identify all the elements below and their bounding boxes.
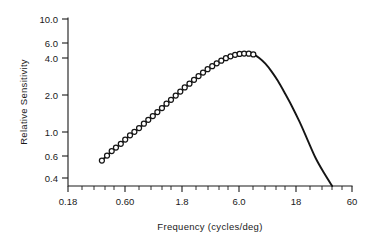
data-point: [99, 158, 104, 163]
y-tick-label: 0.6: [45, 151, 58, 162]
sensitivity-curve: [102, 54, 332, 187]
y-tick-label: 1.0: [45, 127, 58, 138]
data-point: [105, 153, 110, 158]
x-tick-label: 1.8: [175, 196, 188, 207]
x-tick-label: 18: [291, 196, 302, 207]
contrast-sensitivity-plot: 10.0 6.0 4.0 2.0 1.0 0.6 0.4: [0, 0, 372, 247]
x-tick-label: 0.18: [59, 196, 78, 207]
chart-figure: 10.0 6.0 4.0 2.0 1.0 0.6 0.4: [0, 0, 372, 247]
x-tick-label: 6.0: [232, 196, 245, 207]
data-point: [159, 106, 164, 111]
data-point: [196, 74, 201, 79]
data-point: [173, 93, 178, 98]
data-point: [201, 70, 206, 75]
y-tick-label: 6.0: [45, 38, 58, 49]
data-point: [192, 77, 197, 82]
data-point: [187, 81, 192, 86]
data-point: [205, 67, 210, 72]
data-point-markers: [99, 51, 255, 163]
data-point: [141, 121, 146, 126]
x-axis-minor-ticks: [82, 186, 342, 190]
data-point: [169, 97, 174, 102]
data-point: [155, 110, 160, 115]
y-tick-label: 4.0: [45, 53, 58, 64]
data-point: [146, 117, 151, 122]
y-tick-label: 2.0: [45, 90, 58, 101]
data-point: [164, 101, 169, 106]
data-point: [128, 133, 133, 138]
y-tick-labels: 10.0 6.0 4.0 2.0 1.0 0.6 0.4: [40, 14, 59, 184]
y-tick-label: 0.4: [45, 173, 58, 184]
x-axis-major-ticks: [68, 186, 352, 192]
axis-lines: [68, 18, 352, 186]
y-axis-major-ticks: [62, 19, 68, 178]
data-point: [137, 126, 142, 131]
data-point: [118, 141, 123, 146]
x-tick-label: 60: [347, 196, 358, 207]
y-axis-title: Relative Sensitivity: [18, 59, 29, 145]
x-tick-label: 0.60: [116, 196, 135, 207]
data-point: [150, 114, 155, 119]
y-tick-label: 10.0: [40, 14, 59, 25]
data-point: [113, 145, 118, 150]
data-point: [178, 89, 183, 94]
data-point: [123, 137, 128, 142]
data-point: [251, 52, 256, 57]
data-point: [132, 129, 137, 134]
x-axis-title: Frequency (cycles/deg): [157, 221, 262, 232]
data-point: [182, 85, 187, 90]
x-tick-labels: 0.18 0.60 1.8 6.0 18 60: [59, 196, 358, 207]
